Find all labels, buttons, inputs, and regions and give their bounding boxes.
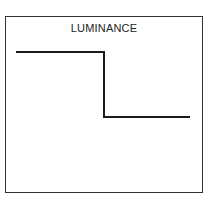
luminance-step-profile bbox=[0, 0, 212, 203]
luminance-line bbox=[16, 52, 190, 117]
